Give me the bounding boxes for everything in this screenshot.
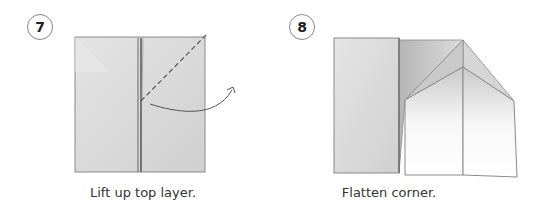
step-8-figure [334, 38, 517, 177]
step-7-caption: Lift up top layer. [90, 185, 190, 200]
step-7-figure [75, 35, 235, 172]
origami-diagram [0, 0, 543, 204]
step-8-caption: Flatten corner. [339, 185, 439, 200]
